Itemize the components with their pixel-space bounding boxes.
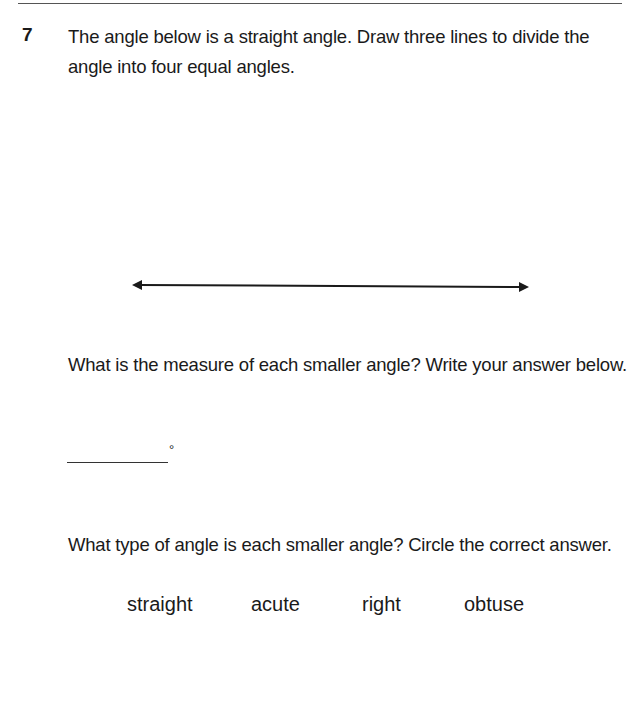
arrow-left-icon [132,280,142,290]
option-obtuse[interactable]: obtuse [464,593,524,616]
sub-question-type: What type of angle is each smaller angle… [68,530,635,560]
question-number: 7 [22,24,33,46]
option-acute[interactable]: acute [251,593,300,616]
option-straight[interactable]: straight [127,593,193,616]
straight-angle-line [130,277,532,297]
arrow-right-icon [519,282,529,292]
answer-blank[interactable] [67,462,168,463]
question-prompt: The angle below is a straight angle. Dra… [68,22,628,82]
option-right[interactable]: right [362,593,401,616]
sub-question-measure: What is the measure of each smaller angl… [68,350,628,380]
degree-symbol: ° [169,442,174,457]
top-divider [18,3,622,4]
